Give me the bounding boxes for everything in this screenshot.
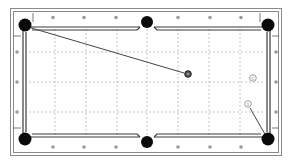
pocket-top-right <box>262 19 275 32</box>
ball-cue: C <box>250 75 257 82</box>
pocket-top-left <box>19 19 32 32</box>
pool-table: C 1 <box>0 0 293 164</box>
ball-1: 1 <box>245 101 252 108</box>
ball-object-dark <box>185 71 192 78</box>
pocket-top-middle <box>141 16 153 28</box>
pocket-bottom-middle <box>141 136 153 148</box>
ball-cue-label: C <box>251 76 254 81</box>
pocket-bottom-right <box>262 133 275 146</box>
ball-1-label: 1 <box>247 102 250 107</box>
pocket-bottom-left <box>19 133 32 146</box>
pool-table-diagram: C 1 <box>0 0 293 164</box>
